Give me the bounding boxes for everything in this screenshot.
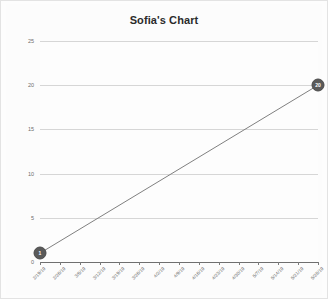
x-tick [318, 262, 319, 265]
x-tick-label: 4/23/19 [211, 266, 226, 281]
y-tick-label: 5 [31, 215, 34, 221]
series-line [40, 41, 318, 262]
series-polyline [40, 85, 318, 253]
x-axis-labels: 2/19/192/26/193/5/193/12/193/19/193/26/1… [40, 265, 318, 299]
x-tick-label: 4/16/19 [191, 266, 206, 281]
chart-screenshot: Sofia's Chart 0510152025 120 2/19/192/26… [0, 0, 328, 299]
plot-area: 120 [40, 41, 318, 262]
x-tick-label: 3/5/19 [73, 266, 86, 279]
x-tick-label: 5/28/19 [310, 266, 325, 281]
y-axis-labels: 0510152025 [6, 41, 38, 262]
x-tick-label: 5/14/19 [270, 266, 285, 281]
data-point-marker[interactable] [34, 247, 47, 260]
x-tick-label: 4/2/19 [153, 266, 166, 279]
x-tick-label: 4/30/19 [230, 266, 245, 281]
chart-card: Sofia's Chart 0510152025 120 2/19/192/26… [6, 4, 322, 295]
y-tick-label: 10 [28, 171, 34, 177]
x-tick-label: 3/26/19 [131, 266, 146, 281]
x-tick-label: 5/7/19 [252, 266, 265, 279]
y-tick-label: 25 [28, 38, 34, 44]
x-tick-label: 3/19/19 [111, 266, 126, 281]
data-point-marker[interactable] [312, 79, 325, 92]
y-tick-label: 0 [31, 259, 34, 265]
y-tick-label: 15 [28, 126, 34, 132]
x-tick-label: 3/12/19 [91, 266, 106, 281]
x-tick-label: 2/26/19 [52, 266, 67, 281]
x-tick-label: 4/9/19 [173, 266, 186, 279]
y-tick-label: 20 [28, 82, 34, 88]
x-tick-label: 2/19/19 [32, 266, 47, 281]
chart-title: Sofia's Chart [6, 14, 322, 26]
x-tick-label: 5/21/19 [290, 266, 305, 281]
